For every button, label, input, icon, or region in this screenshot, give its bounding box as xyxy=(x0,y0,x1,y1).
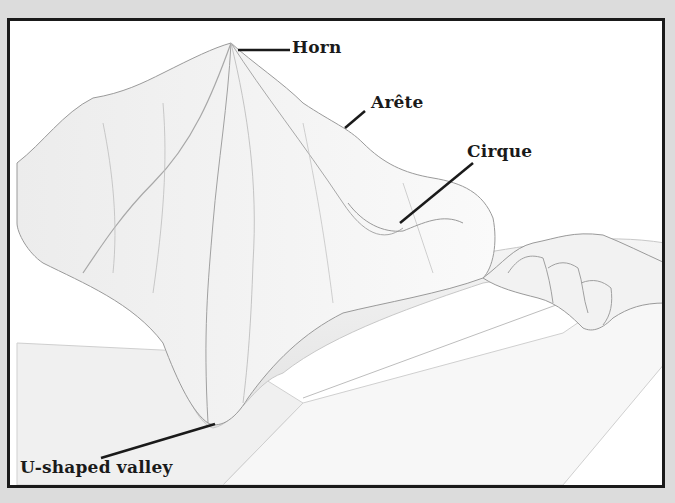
label-horn: Horn xyxy=(292,37,342,57)
label-u-shaped-valley: U-shaped valley xyxy=(20,457,173,477)
arete-leader-line xyxy=(345,111,365,128)
label-arete: Arête xyxy=(371,92,424,112)
glacial-landscape-illustration xyxy=(10,21,662,485)
label-cirque: Cirque xyxy=(467,141,532,161)
diagram-frame: Horn Arête Cirque U-shaped valley xyxy=(7,18,665,488)
